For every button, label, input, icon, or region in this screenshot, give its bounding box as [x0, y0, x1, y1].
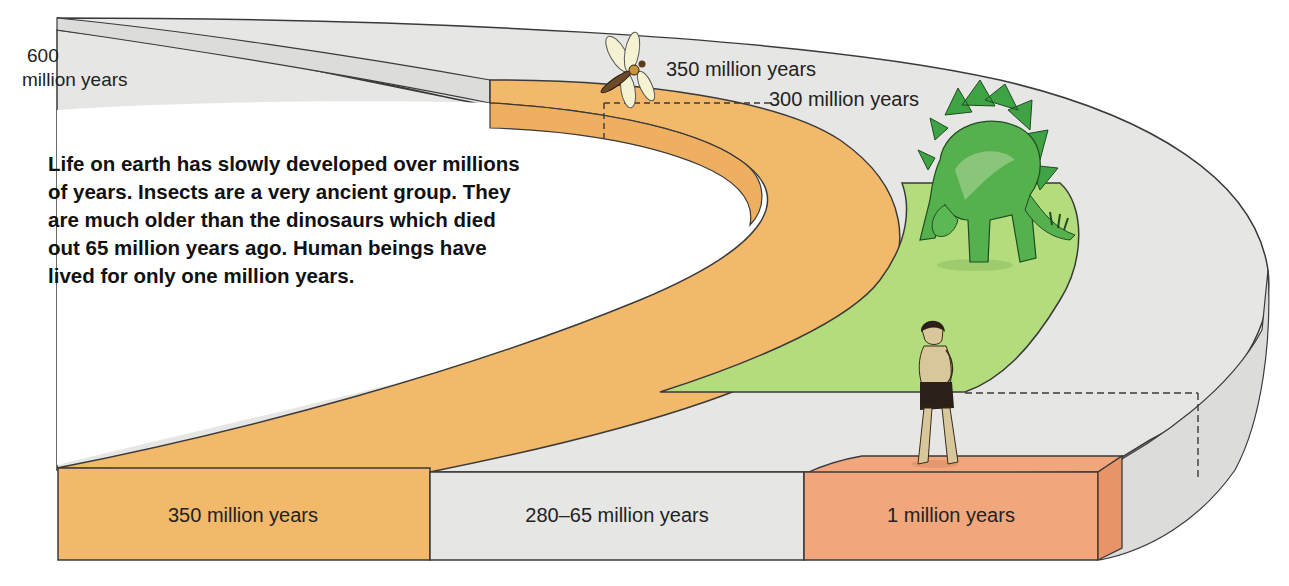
insects-end-age-label: 300 million years [769, 88, 919, 111]
block-dinosaurs-label: 280–65 million years [430, 504, 804, 527]
start-age-number: 600 [22, 44, 128, 68]
block-humans-label: 1 million years [804, 504, 1098, 527]
start-age-unit: million years [22, 69, 128, 90]
start-age-label: 600 million years [22, 44, 128, 92]
caption-line: are much older than the dinosaurs which … [48, 206, 688, 234]
caption-text: Life on earth has slowly developed over … [48, 150, 688, 290]
insects-age-label: 350 million years [666, 58, 816, 81]
timeline-diagram [0, 0, 1289, 586]
block-humans-side [1098, 456, 1122, 560]
caption-line: out 65 million years ago. Human beings h… [48, 234, 688, 262]
caption-line: Life on earth has slowly developed over … [48, 150, 688, 178]
caption-line: of years. Insects are a very ancient gro… [48, 178, 688, 206]
caption-line: lived for only one million years. [48, 262, 688, 290]
block-insects-label: 350 million years [58, 504, 428, 527]
